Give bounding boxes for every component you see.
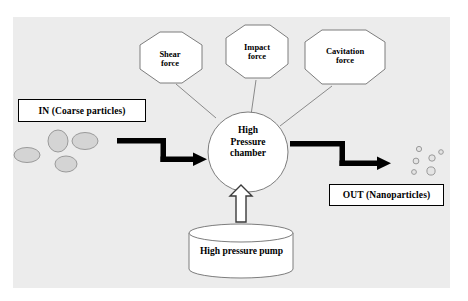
connector-impact-chamber [251, 80, 256, 115]
high-pressure-chamber-circle[interactable] [208, 112, 288, 192]
nano-particle-group [412, 146, 444, 175]
inlet-flow-arrow [117, 138, 207, 166]
coarse-particle-group [14, 130, 98, 172]
shear-force-octagon[interactable] [140, 32, 202, 83]
diagram-canvas: Shear force Impact force Cavitation forc… [0, 0, 468, 301]
outlet-flow-arrow [290, 141, 391, 170]
outlet-label-box[interactable]: OUT (Nanoparticles) [329, 184, 444, 206]
impact-force-octagon[interactable] [226, 25, 288, 78]
connector-shear-chamber [176, 84, 216, 118]
inlet-label-box[interactable]: IN (Coarse particles) [18, 99, 146, 122]
high-pressure-pump-cylinder[interactable] [189, 224, 293, 278]
diagram-vector-layer [0, 0, 468, 301]
cavitation-force-octagon[interactable] [305, 30, 385, 84]
connector-cavitation-chamber [280, 86, 332, 126]
